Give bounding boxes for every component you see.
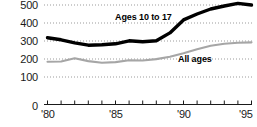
series-line-ages-10-to-17 [48, 3, 252, 45]
series-line-all-ages [48, 42, 252, 62]
x-axis-tick-1990: '90 [177, 109, 191, 120]
x-axis-tick-1985: '85 [109, 109, 123, 120]
series-label-ages-10-to-17: Ages 10 to 17 [115, 13, 172, 22]
x-axis [44, 101, 252, 105]
series-label-all-ages: All ages [178, 55, 212, 64]
line-chart: 500 400 300 200 100 0 [0, 0, 257, 127]
x-axis-tick-1980: '80 [41, 109, 55, 120]
x-axis-tick-1995: '95 [239, 109, 253, 120]
